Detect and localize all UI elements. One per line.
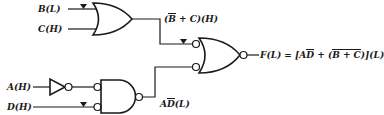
or-output-label: (B + C)(H) <box>164 14 218 24</box>
nand-output-label: AD(L) <box>160 99 190 109</box>
input-label-a: A(H) <box>7 82 31 92</box>
b-plus-c-bar: B + C <box>332 50 361 60</box>
input-label-b: B(L) <box>38 4 60 14</box>
nand-output-bubble-icon <box>136 94 143 101</box>
nor-gate-icon <box>199 38 240 73</box>
active-low-marker-b-icon <box>80 4 87 9</box>
d-bar: D <box>167 99 175 109</box>
input-label-c: C(H) <box>38 24 62 34</box>
output-expression-f: F(L) = [AD + (B + C)](L) <box>260 50 384 60</box>
nand-input-bubble-1-icon <box>94 84 101 91</box>
nand-gate-icon <box>101 80 136 113</box>
or-gate-icon <box>93 3 132 35</box>
nor-input-bubble-2-icon <box>193 64 200 71</box>
b-bar: B <box>168 14 176 24</box>
d-bar: D <box>306 50 314 60</box>
active-low-marker-d-icon <box>80 102 87 107</box>
nor-output-bubble-icon <box>240 52 247 59</box>
inverter-gate-icon <box>50 79 65 95</box>
input-label-d: D(H) <box>7 102 32 112</box>
b-bar: B <box>332 50 340 60</box>
inverter-output-bubble-icon <box>65 84 72 91</box>
wire-nand-output <box>143 67 193 97</box>
nand-input-bubble-2-icon <box>94 104 101 111</box>
nor-input-bubble-1-icon <box>193 41 200 48</box>
active-low-marker-or-out-icon <box>180 39 187 44</box>
